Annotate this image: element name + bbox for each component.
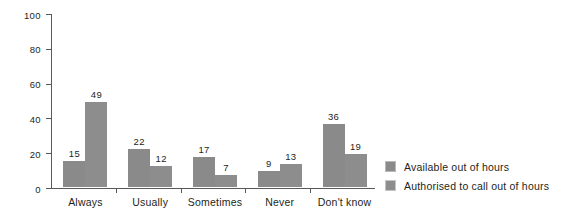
- x-axis-category-label: Sometimes: [188, 196, 242, 208]
- bar-value-label: 9: [266, 159, 272, 169]
- x-axis-tick: [310, 189, 311, 193]
- legend-label-authorised: Authorised to call out of hours: [404, 180, 549, 192]
- x-axis-category-label: Always: [68, 196, 102, 208]
- bar-value-label: 13: [285, 152, 296, 162]
- bar[interactable]: 36: [323, 124, 345, 187]
- y-axis-tick: 60: [46, 84, 51, 85]
- legend-item-authorised[interactable]: Authorised to call out of hours: [385, 177, 549, 194]
- bar-value-label: 17: [198, 145, 209, 155]
- x-axis-category-label: Usually: [132, 196, 168, 208]
- bar-value-label: 19: [350, 142, 361, 152]
- y-axis-tick-label: 20: [30, 148, 41, 159]
- legend-label-available: Available out of hours: [404, 161, 509, 173]
- legend-swatch-icon-authorised: [385, 180, 396, 191]
- bar[interactable]: 13: [280, 164, 302, 187]
- y-axis-tick: 40: [46, 118, 51, 119]
- x-axis-category-label: Don't know: [318, 196, 372, 208]
- legend: Available out of hours Authorised to cal…: [385, 158, 549, 196]
- bar-group: 2212: [128, 13, 172, 187]
- y-axis-tick-label: 80: [30, 44, 41, 55]
- x-axis-tick: [181, 189, 182, 193]
- y-axis-tick-label: 60: [30, 79, 41, 90]
- bar-group: 1549: [63, 13, 107, 187]
- y-axis-tick-label: 40: [30, 113, 41, 124]
- bar-value-label: 22: [134, 137, 145, 147]
- bar-value-label: 7: [223, 163, 229, 173]
- legend-swatch-icon-available: [385, 161, 396, 172]
- bar-group: 177: [193, 13, 237, 187]
- bar[interactable]: 49: [85, 102, 107, 187]
- bar[interactable]: 7: [215, 175, 237, 187]
- legend-item-available[interactable]: Available out of hours: [385, 158, 549, 175]
- bar[interactable]: 15: [63, 161, 85, 187]
- y-axis-tick: 100: [46, 14, 51, 15]
- bar-value-label: 36: [328, 112, 339, 122]
- x-axis-tick: [245, 189, 246, 193]
- y-axis-tick: 80: [46, 49, 51, 50]
- y-axis-line: [51, 14, 52, 188]
- bar[interactable]: 19: [345, 154, 367, 187]
- bar-chart: 020406080100 154922121779133619 AlwaysUs…: [0, 0, 577, 217]
- y-axis-tick-label: 100: [24, 9, 41, 20]
- bar-value-label: 49: [91, 90, 102, 100]
- y-axis-tick: 0: [46, 188, 51, 189]
- y-axis-tick-label: 0: [35, 183, 41, 194]
- bar[interactable]: 12: [150, 166, 172, 187]
- bar[interactable]: 22: [128, 149, 150, 187]
- x-axis-line: [51, 188, 375, 189]
- bar-group: 3619: [323, 13, 367, 187]
- x-axis-category-label: Never: [265, 196, 294, 208]
- bar[interactable]: 9: [258, 171, 280, 187]
- plot-area: 020406080100 154922121779133619: [51, 14, 375, 188]
- bar-value-label: 15: [69, 149, 80, 159]
- x-axis-tick: [116, 189, 117, 193]
- bar-group: 913: [258, 13, 302, 187]
- y-axis-tick: 20: [46, 153, 51, 154]
- bar-value-label: 12: [156, 154, 167, 164]
- bar[interactable]: 17: [193, 157, 215, 187]
